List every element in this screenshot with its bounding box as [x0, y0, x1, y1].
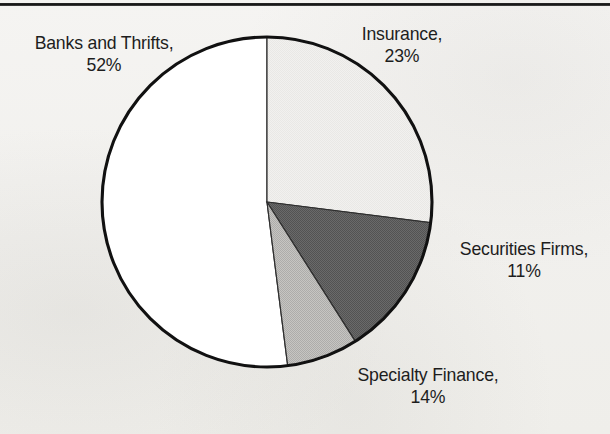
pie-label-specialty-finance-value: 14% [337, 386, 519, 408]
pie-label-insurance-value: 23% [331, 45, 472, 67]
pie-label-securities-firms: Securities Firms, 11% [444, 238, 604, 282]
pie-label-securities-firms-value: 11% [444, 260, 604, 282]
pie-label-insurance: Insurance, 23% [331, 23, 472, 67]
pie-label-specialty-finance: Specialty Finance, 14% [337, 364, 519, 408]
pie-chart: Banks and Thrifts, 52% Insurance, 23% Se… [0, 0, 610, 434]
pie-label-banks-and-thrifts-name: Banks and Thrifts, [35, 32, 174, 53]
pie-slice-banks-and-thrifts [102, 37, 288, 367]
pie-label-insurance-name: Insurance, [362, 23, 443, 44]
pie-label-securities-firms-name: Securities Firms, [460, 238, 588, 259]
pie-label-banks-and-thrifts: Banks and Thrifts, 52% [16, 32, 193, 76]
pie-label-specialty-finance-name: Specialty Finance, [357, 364, 498, 385]
pie-label-banks-and-thrifts-value: 52% [16, 54, 193, 76]
